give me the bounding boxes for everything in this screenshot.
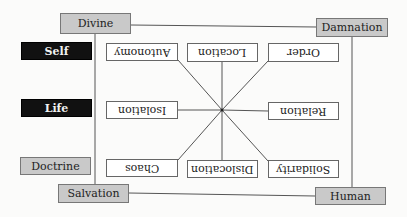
- node-label: Relation: [280, 105, 327, 118]
- node-location: Location: [187, 43, 258, 62]
- node-label: Location: [198, 46, 246, 59]
- node-label: Damnation: [321, 21, 382, 34]
- node-salvation: Salvation: [58, 184, 129, 203]
- node-chaos: Chaos: [106, 159, 178, 177]
- node-relation: Relation: [268, 102, 339, 120]
- node-dislocation: Dislocation: [187, 160, 258, 178]
- node-autonomy: Autonomy: [106, 43, 178, 61]
- node-label: Autonomy: [114, 46, 170, 59]
- node-human: Human: [315, 187, 386, 205]
- label-text: Doctrine: [31, 160, 79, 173]
- node-solidarity: Solidarity: [268, 160, 339, 178]
- node-label: Salvation: [67, 187, 119, 200]
- node-label: Dislocation: [191, 163, 254, 176]
- node-label: Isolation: [118, 104, 166, 117]
- label-text: Self: [45, 45, 69, 58]
- node-divine: Divine: [60, 13, 131, 34]
- node-label: Chaos: [125, 162, 159, 175]
- node-label: Human: [330, 190, 371, 203]
- label-text: Life: [45, 102, 69, 115]
- label-doctrine: Doctrine: [20, 157, 91, 175]
- node-damnation: Damnation: [316, 18, 388, 37]
- label-life: Life: [21, 99, 92, 117]
- node-label: Order: [287, 46, 320, 59]
- node-label: Solidarity: [276, 163, 330, 176]
- node-order: Order: [268, 43, 339, 62]
- node-isolation: Isolation: [106, 101, 178, 119]
- node-label: Divine: [78, 17, 114, 30]
- label-self: Self: [21, 42, 92, 60]
